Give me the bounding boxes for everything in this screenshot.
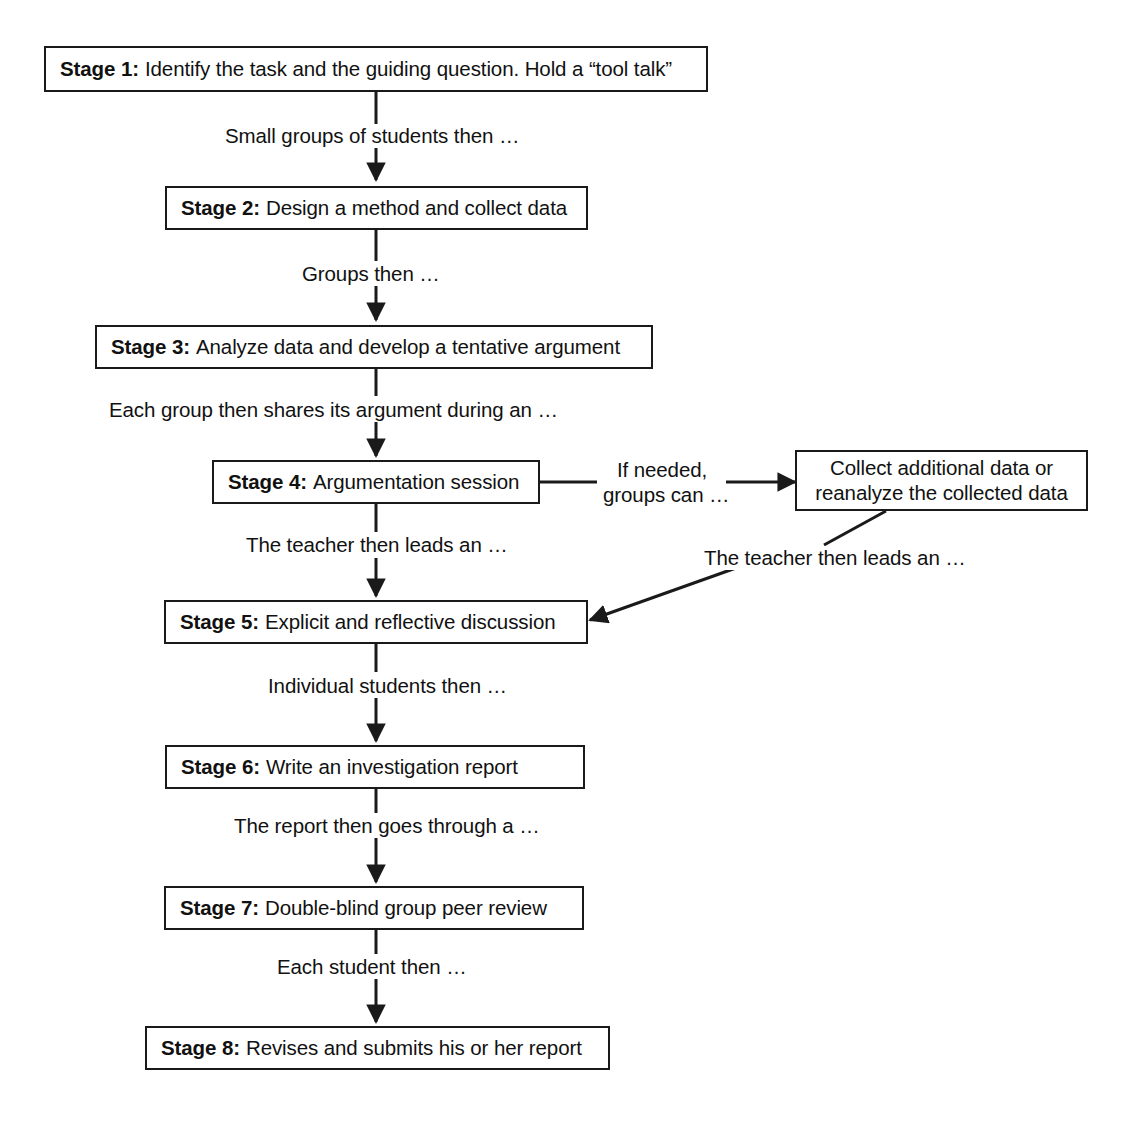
node-stage-3-text: Analyze data and develop a tentative arg… [196,335,620,359]
node-stage-1[interactable]: Stage 1: Identify the task and the guidi… [44,46,708,92]
node-stage-2-text: Design a method and collect data [266,196,567,220]
node-stage-8-label: Stage 8: [161,1036,240,1060]
node-stage-3[interactable]: Stage 3: Analyze data and develop a tent… [95,325,653,369]
node-stage-1-text: Identify the task and the guiding questi… [145,57,672,81]
node-stage-5-label: Stage 5: [180,610,259,634]
edge-label-collect-stage5: The teacher then leads an … [699,546,971,570]
edge-label-stage7-stage8: Each student then … [272,955,472,979]
edge-label-stage4-collect-line-1: If needed, [603,458,721,483]
node-stage-6-label: Stage 6: [181,755,260,779]
node-collect-additional-data[interactable]: Collect additional data or reanalyze the… [795,450,1088,511]
node-stage-8[interactable]: Stage 8: Revises and submits his or her … [145,1026,610,1070]
edge-label-stage4-collect: If needed, groups can … [598,458,726,507]
cropped-caption-sliver [0,0,1141,7]
flowchart-canvas: Stage 1: Identify the task and the guidi… [0,0,1141,1126]
edge-label-stage4-collect-line-2: groups can … [603,483,721,508]
node-stage-4-text: Argumentation session [313,470,519,494]
node-stage-7-label: Stage 7: [180,896,259,920]
node-stage-6[interactable]: Stage 6: Write an investigation report [165,745,585,789]
node-stage-4[interactable]: Stage 4: Argumentation session [212,460,540,504]
node-stage-2[interactable]: Stage 2: Design a method and collect dat… [165,186,588,230]
node-stage-7-text: Double-blind group peer review [265,896,547,920]
connector-collect-stage5-lower [590,563,750,620]
node-collect-line-2: reanalyze the collected data [815,481,1067,505]
node-stage-6-text: Write an investigation report [266,755,518,779]
edge-label-stage4-stage5: The teacher then leads an … [241,533,513,557]
node-stage-3-label: Stage 3: [111,335,190,359]
node-stage-5[interactable]: Stage 5: Explicit and reflective discuss… [164,600,588,644]
node-stage-5-text: Explicit and reflective discussion [265,610,556,634]
node-stage-7[interactable]: Stage 7: Double-blind group peer review [164,886,584,930]
node-stage-1-label: Stage 1: [60,57,139,81]
edge-label-stage2-stage3: Groups then … [297,262,445,286]
edge-label-stage3-stage4: Each group then shares its argument duri… [104,398,563,422]
node-stage-2-label: Stage 2: [181,196,260,220]
node-stage-8-text: Revises and submits his or her report [246,1036,582,1060]
node-stage-4-label: Stage 4: [228,470,307,494]
node-collect-line-1: Collect additional data or [830,456,1053,480]
edge-label-stage6-stage7: The report then goes through a … [229,814,545,838]
connector-collect-stage5-upper [824,511,886,545]
edge-label-stage5-stage6: Individual students then … [263,674,512,698]
edge-label-stage1-stage2: Small groups of students then … [220,124,524,148]
